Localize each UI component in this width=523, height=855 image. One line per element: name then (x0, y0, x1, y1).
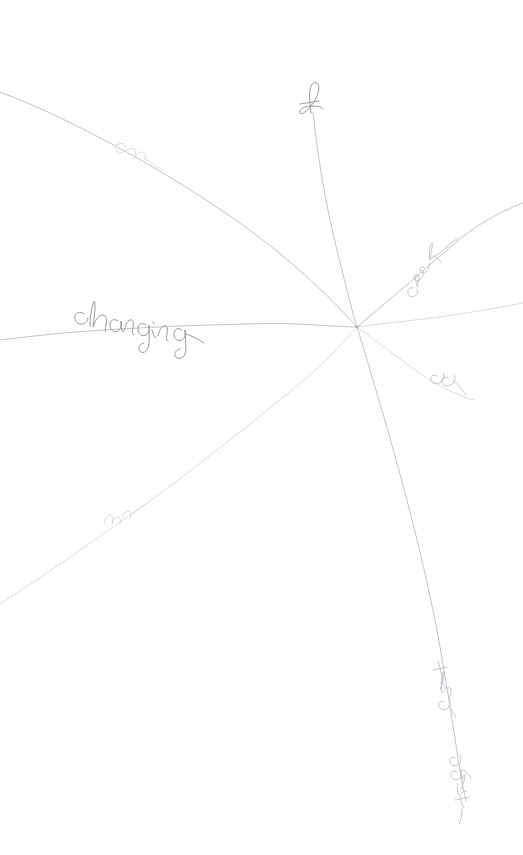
inscription-earth (450, 755, 471, 824)
ray-upper-right (357, 203, 523, 327)
radiating-lines-drawing (0, 0, 523, 855)
inscription-en (114, 143, 162, 170)
ray-bottom-right (357, 327, 466, 801)
inscription-changing (75, 301, 204, 358)
convergence-point (356, 326, 359, 329)
inscription-the (433, 661, 456, 718)
ray-upper-left (0, 92, 357, 327)
ray-lower-left (0, 327, 357, 604)
ray-lower-right-stub (357, 327, 474, 400)
inscription-un (104, 504, 146, 524)
inscription-ee (431, 373, 466, 395)
ray-left (0, 324, 357, 340)
inscription-of (300, 82, 323, 113)
ray-top (313, 112, 357, 327)
sketch-canvas: of en changing un creek ee the earth (0, 0, 523, 855)
